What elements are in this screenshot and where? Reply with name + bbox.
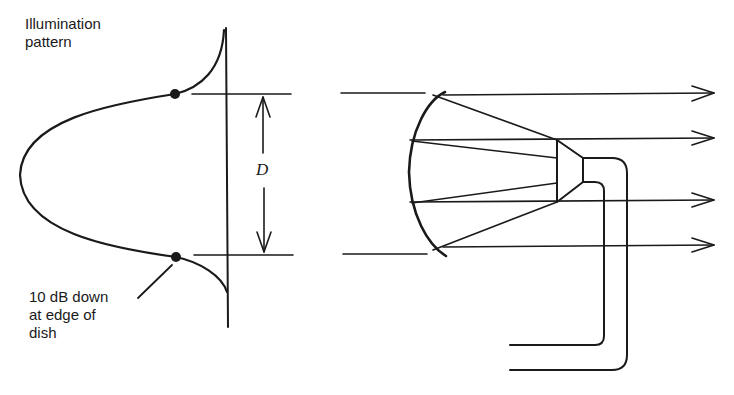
illumination-pattern-curve: [20, 30, 227, 292]
ray-1: [443, 93, 714, 95]
illumination-label-line2: pattern: [25, 33, 101, 51]
waveguide-inner: [510, 182, 604, 345]
edge-annotation-line1: 10 dB down: [29, 288, 108, 306]
illumination-label: Illumination pattern: [25, 15, 101, 51]
ray-3: [410, 200, 714, 202]
edge-annotation-line2: at edge of: [29, 306, 108, 324]
edge-point-bottom: [171, 252, 181, 262]
ray-2: [410, 138, 714, 140]
diagram-canvas: Illumination pattern 10 dB down at edge …: [0, 0, 734, 395]
parabolic-dish: [409, 92, 446, 256]
edge-annotation: 10 dB down at edge of dish: [29, 288, 108, 342]
edge-point-top: [170, 89, 180, 99]
feed-ray-2: [412, 141, 557, 158]
diagram-drawing: [0, 0, 734, 395]
diameter-label: D: [256, 160, 268, 180]
edge-leader-line: [138, 265, 172, 298]
feed-ray-1: [433, 95, 557, 140]
illumination-label-line1: Illumination: [25, 15, 101, 33]
feed-ray-4: [433, 202, 557, 250]
ray-4: [443, 245, 714, 247]
feed-ray-3: [412, 183, 557, 203]
edge-annotation-line3: dish: [29, 324, 108, 342]
dish-plane-line: [226, 28, 228, 327]
feed-horn: [557, 140, 583, 202]
